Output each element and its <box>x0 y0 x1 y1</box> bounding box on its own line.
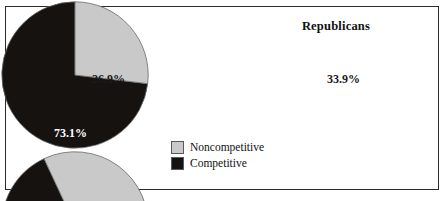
pie-label-democrats-noncompetitive: 26.9% <box>92 72 125 87</box>
legend-swatch-competitive-icon <box>171 157 184 170</box>
pie-label-republicans-noncompetitive: 33.9% <box>327 72 360 87</box>
pie-chart-republicans <box>0 150 150 201</box>
legend-item-competitive[interactable]: Competitive <box>171 157 264 170</box>
chart-title-republicans: Republicans <box>271 19 401 34</box>
pie-label-republicans-competitive: 66.1% <box>298 126 331 141</box>
legend-swatch-noncompetitive-icon <box>171 141 184 154</box>
pie-chart-republicans-svg <box>0 150 150 201</box>
figure-canvas: Democrats Republicans 26.9% 73.1% 33.9% … <box>0 0 447 201</box>
pie-label-democrats-competitive: 73.1% <box>54 126 87 141</box>
chart-legend: Noncompetitive Competitive <box>171 141 264 170</box>
legend-label-noncompetitive: Noncompetitive <box>190 142 264 154</box>
legend-item-noncompetitive[interactable]: Noncompetitive <box>171 141 264 154</box>
legend-label-competitive: Competitive <box>190 158 247 170</box>
